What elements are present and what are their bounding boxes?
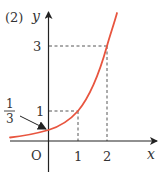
x-axis-label: x — [147, 146, 155, 162]
origin-label: O — [31, 148, 42, 163]
fraction-numerator: 1 — [6, 97, 14, 111]
x-tick-2: 2 — [103, 149, 111, 164]
function-graph: (2) y x O 1 2 1 3 1 3 — [0, 0, 168, 176]
fraction-denominator: 3 — [6, 112, 14, 126]
fraction-one-third: 1 3 — [4, 97, 15, 126]
y-tick-3: 3 — [33, 39, 41, 54]
y-tick-1: 1 — [36, 104, 44, 119]
x-tick-1: 1 — [74, 149, 82, 164]
problem-label: (2) — [5, 10, 23, 25]
y-axis-label: y — [31, 8, 41, 24]
